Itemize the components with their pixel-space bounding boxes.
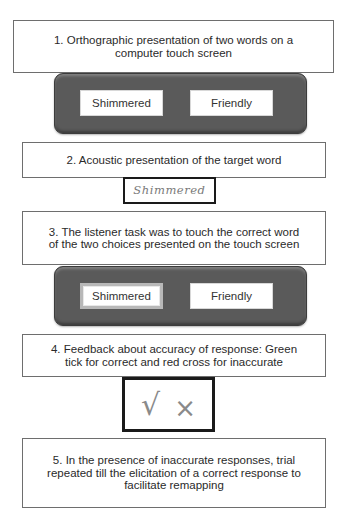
acoustic-target-box: Shimmered <box>123 177 216 204</box>
step-2-text: 2. Acoustic presentation of the target w… <box>67 154 282 167</box>
touch-screen-panel-1: Shimmered Friendly <box>54 73 307 134</box>
step-1-text: 1. Orthographic presentation of two word… <box>54 34 294 59</box>
tick-icon: √ <box>141 390 160 420</box>
target-word-cursive: Shimmered <box>133 184 205 197</box>
choice-button-shimmered-selected[interactable]: Shimmered <box>80 283 163 309</box>
step-1-box: 1. Orthographic presentation of two word… <box>13 20 334 73</box>
choice-label: Friendly <box>211 290 252 302</box>
step-3-box: 3. The listener task was to touch the co… <box>22 211 326 265</box>
step-2-box: 2. Acoustic presentation of the target w… <box>22 142 326 178</box>
step-4-box: 4. Feedback about accuracy of response: … <box>22 334 326 377</box>
choice-label: Shimmered <box>92 97 151 109</box>
step-3-text: 3. The listener task was to touch the co… <box>44 226 304 251</box>
step-4-text: 4. Feedback about accuracy of response: … <box>44 343 304 368</box>
choice-label: Friendly <box>211 97 252 109</box>
feedback-box: √ × <box>122 377 215 432</box>
choice-button-shimmered[interactable]: Shimmered <box>80 90 163 116</box>
choice-button-friendly[interactable]: Friendly <box>190 283 273 309</box>
cross-icon: × <box>174 395 196 421</box>
choice-button-friendly[interactable]: Friendly <box>190 90 273 116</box>
step-5-box: 5. In the presence of inaccurate respons… <box>22 438 326 508</box>
choice-label: Shimmered <box>92 290 151 302</box>
step-5-text: 5. In the presence of inaccurate respons… <box>39 454 309 492</box>
touch-screen-panel-2: Shimmered Friendly <box>54 266 307 326</box>
